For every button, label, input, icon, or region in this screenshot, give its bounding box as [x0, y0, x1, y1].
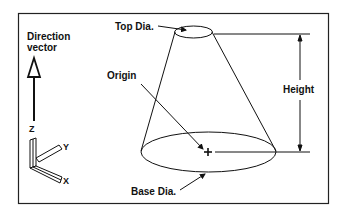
axis-z-label: Z: [29, 124, 35, 135]
origin-marker: [204, 148, 212, 156]
axis-y-label: Y: [63, 142, 69, 153]
height-label: Height: [283, 84, 314, 95]
direction-vector-label-line1: Direction: [27, 31, 70, 42]
direction-vector-arrow: [28, 58, 40, 121]
top-ellipse: [175, 26, 213, 38]
axes-icon: [30, 138, 62, 183]
base-dia-label: Base Dia.: [131, 186, 176, 197]
leader-lines: [141, 26, 205, 190]
axis-x-label: X: [63, 176, 69, 187]
direction-vector-label-line2: vector: [27, 42, 70, 53]
top-dia-label: Top Dia.: [115, 21, 154, 32]
direction-vector-label: Direction vector: [27, 31, 70, 53]
origin-label: Origin: [107, 70, 136, 81]
